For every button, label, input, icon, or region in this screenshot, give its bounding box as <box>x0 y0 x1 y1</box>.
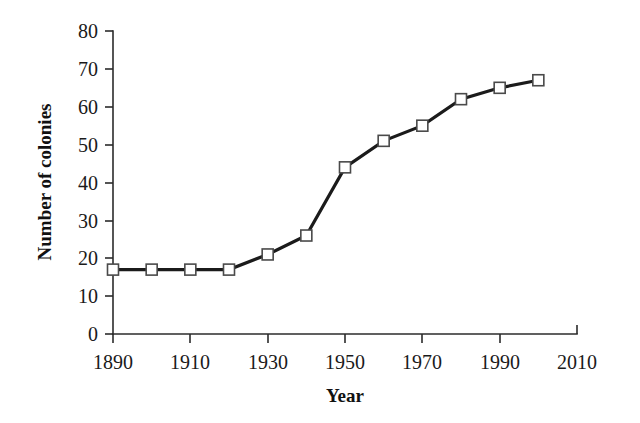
data-point-marker <box>146 264 157 275</box>
line-chart-canvas: 0 10 20 30 40 50 60 70 80 1890 1910 1930… <box>0 0 640 423</box>
data-point-marker <box>301 230 312 241</box>
data-point-marker <box>185 264 196 275</box>
data-point-marker <box>417 120 428 131</box>
y-tick-label-20: 20 <box>78 247 98 269</box>
data-point-marker <box>340 162 351 173</box>
data-point-marker <box>262 249 273 260</box>
y-tick-label-40: 40 <box>78 172 98 194</box>
x-tick-label-1890: 1890 <box>93 351 133 373</box>
y-axis-title: Number of colonies <box>34 104 55 261</box>
y-tick-label-10: 10 <box>78 285 98 307</box>
chart-figure: 0 10 20 30 40 50 60 70 80 1890 1910 1930… <box>0 0 640 423</box>
y-tick-label-0: 0 <box>88 323 98 345</box>
data-point-marker <box>456 94 467 105</box>
data-point-marker <box>494 82 505 93</box>
x-axis-title: Year <box>326 385 365 406</box>
data-point-marker <box>378 135 389 146</box>
data-point-marker <box>108 264 119 275</box>
data-point-marker <box>224 264 235 275</box>
x-tick-label-1910: 1910 <box>170 351 210 373</box>
y-axis-tick-labels: 0 10 20 30 40 50 60 70 80 <box>78 20 98 345</box>
y-tick-label-50: 50 <box>78 134 98 156</box>
y-tick-label-80: 80 <box>78 20 98 42</box>
y-tick-label-70: 70 <box>78 58 98 80</box>
x-tick-label-2010: 2010 <box>557 351 597 373</box>
y-tick-label-30: 30 <box>78 210 98 232</box>
y-tick-label-60: 60 <box>78 96 98 118</box>
x-tick-label-1990: 1990 <box>480 351 520 373</box>
data-point-marker <box>533 75 544 86</box>
x-tick-label-1970: 1970 <box>402 351 442 373</box>
x-tick-label-1950: 1950 <box>325 351 365 373</box>
x-tick-label-1930: 1930 <box>248 351 288 373</box>
